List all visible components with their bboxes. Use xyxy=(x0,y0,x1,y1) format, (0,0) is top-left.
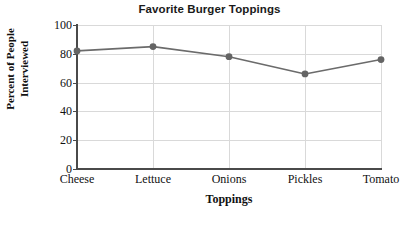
x-axis-tick-labels: CheeseLettuceOnionsPicklesTomato xyxy=(0,172,419,190)
data-point-marker xyxy=(226,53,233,60)
y-tick-label: 100 xyxy=(38,20,72,30)
data-point-marker xyxy=(302,71,309,78)
x-tick-label-cheese: Cheese xyxy=(60,172,95,187)
y-axis-title: Percent of People Interviewed xyxy=(4,14,38,124)
x-tick-label-lettuce: Lettuce xyxy=(135,172,171,187)
x-axis-title: Toppings xyxy=(77,192,381,207)
y-tick-label: 80 xyxy=(38,49,72,59)
y-tick-mark xyxy=(73,169,77,170)
y-axis-title-line-1: Percent of People xyxy=(4,14,18,124)
y-axis-title-line-2: Interviewed xyxy=(18,14,32,124)
chart-screenshot: Favorite Burger Toppings Percent of Peop… xyxy=(0,0,419,226)
x-tick-label-tomato: Tomato xyxy=(363,172,400,187)
plot-area xyxy=(77,25,381,169)
data-point-marker xyxy=(74,48,81,55)
y-tick-label: 40 xyxy=(38,106,72,116)
data-series-line xyxy=(77,25,381,169)
x-tick-label-pickles: Pickles xyxy=(288,172,323,187)
y-tick-label: 20 xyxy=(38,135,72,145)
y-tick-label: 60 xyxy=(38,78,72,88)
y-axis-tick-labels: 020406080100 xyxy=(38,0,72,226)
x-tick-label-onions: Onions xyxy=(212,172,247,187)
gridline-vertical xyxy=(381,25,382,169)
data-point-marker xyxy=(378,56,385,63)
data-point-marker xyxy=(150,43,157,50)
series-polyline xyxy=(77,47,381,74)
